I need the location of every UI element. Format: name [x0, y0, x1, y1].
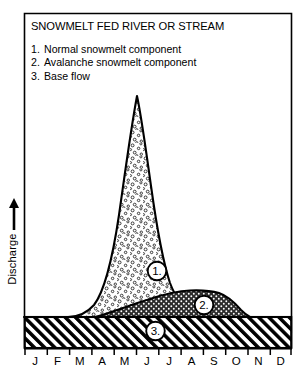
- x-tick-label-apr: A: [91, 352, 113, 372]
- chart-title: SNOWMELT FED RIVER OR STREAM: [31, 20, 246, 32]
- legend-item-3-label: Base flow: [44, 70, 90, 82]
- legend-item-3: 3.Base flow: [31, 70, 246, 83]
- annotation-1: 1.: [148, 262, 167, 281]
- legend-item-2-label: Avalanche snowmelt component: [44, 56, 196, 68]
- annotation-3-text: 3.: [151, 325, 161, 337]
- x-tick-label-jan: J: [24, 352, 46, 372]
- legend-item-2-number: 2.: [31, 56, 44, 69]
- x-tick-label-may: M: [113, 352, 135, 372]
- x-tick-label-dec: D: [270, 352, 292, 372]
- x-tick-label-feb: F: [46, 352, 68, 372]
- legend-item-2: 2.Avalanche snowmelt component: [31, 56, 246, 69]
- legend-item-1-number: 1.: [31, 43, 44, 56]
- hydrograph-figure: 1. 2. 3. Discharge SNOWMELT FED RIVER OR…: [0, 0, 305, 375]
- legend-item-1-label: Normal snowmelt component: [44, 43, 181, 55]
- x-tick-label-sep: S: [203, 352, 225, 372]
- x-tick-label-jul: J: [158, 352, 180, 372]
- y-axis-group: Discharge: [0, 195, 26, 335]
- x-tick-label-jun: J: [136, 352, 158, 372]
- legend-block: SNOWMELT FED RIVER OR STREAM 1.Normal sn…: [31, 20, 246, 83]
- legend-item-1: 1.Normal snowmelt component: [31, 43, 246, 56]
- x-tick-label-nov: N: [247, 352, 269, 372]
- annotation-2: 2.: [195, 296, 214, 315]
- x-tick-label-oct: O: [225, 352, 247, 372]
- x-axis-labels: J F M A M J J A S O N D: [24, 352, 292, 372]
- x-tick-label-aug: A: [180, 352, 202, 372]
- annotation-2-text: 2.: [199, 299, 209, 311]
- legend-item-3-number: 3.: [31, 70, 44, 83]
- annotation-1-text: 1.: [152, 265, 162, 277]
- annotation-3: 3.: [146, 322, 165, 341]
- x-tick-label-mar: M: [69, 352, 91, 372]
- y-axis-label: Discharge: [6, 205, 18, 313]
